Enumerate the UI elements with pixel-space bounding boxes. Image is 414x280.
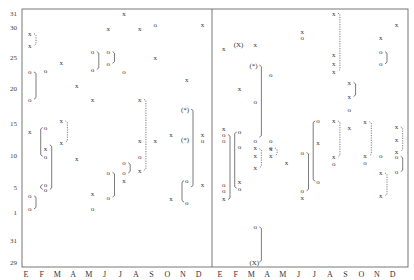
x-marker: x: [269, 152, 273, 160]
chart: 313025201510513129 EFMAMJJASONDEFMAMJJAS…: [0, 0, 414, 280]
o-marker: o: [44, 124, 48, 132]
o-marker: o: [332, 160, 336, 168]
x-tick-label: M: [248, 270, 255, 279]
o-marker: o: [91, 205, 95, 213]
o-marker: o: [28, 96, 32, 104]
o-marker: o: [201, 137, 205, 145]
x-axis: EFMAMJJASONDEFMAMJJASOND: [24, 270, 396, 279]
x-marker: x: [348, 79, 352, 87]
x-marker: x: [138, 137, 142, 145]
x-marker: x: [107, 25, 111, 33]
star-paren-marker: (*): [181, 106, 190, 114]
x-tick-label: F: [233, 270, 238, 279]
x-marker: x: [154, 137, 158, 145]
o-marker: o: [91, 48, 95, 56]
x-marker: x: [75, 82, 79, 90]
o-marker: o: [379, 60, 383, 68]
x-marker: x: [332, 117, 336, 125]
x-marker: x: [395, 21, 399, 29]
o-marker: o: [91, 66, 95, 74]
x-tick-label: E: [218, 270, 223, 279]
o-marker: o: [222, 137, 226, 145]
o-marker: o: [301, 149, 305, 157]
x-marker: x: [285, 159, 289, 167]
o-marker: o: [238, 185, 242, 193]
x-marker: x: [253, 152, 257, 160]
x-paren-marker: (X): [249, 259, 259, 267]
x-marker: x: [201, 181, 205, 189]
x-marker: x: [379, 34, 383, 42]
x-marker: x: [316, 139, 320, 147]
x-marker: x: [154, 54, 158, 62]
x-tick-label: D: [196, 270, 202, 279]
y-tick-label: 31: [10, 237, 18, 245]
o-marker: o: [44, 186, 48, 194]
x-tick-label: A: [70, 270, 76, 279]
o-marker: o: [28, 192, 32, 200]
x-marker: x: [379, 192, 383, 200]
o-marker: o: [379, 48, 383, 56]
x-tick-label: J: [313, 270, 316, 279]
y-axis: 313025201510513129: [10, 10, 18, 267]
x-marker: x: [138, 167, 142, 175]
x-marker: x: [222, 195, 226, 203]
y-tick-label: 15: [10, 120, 18, 128]
o-marker: o: [185, 199, 189, 207]
x-marker: x: [169, 131, 173, 139]
x-tick-label: A: [133, 270, 139, 279]
x-marker: x: [348, 124, 352, 132]
o-marker: o: [28, 205, 32, 213]
o-marker: o: [122, 68, 126, 76]
o-marker: o: [154, 21, 158, 29]
o-marker: o: [222, 187, 226, 195]
x-marker: x: [253, 164, 257, 172]
x-tick-label: M: [279, 270, 286, 279]
o-marker: o: [44, 153, 48, 161]
o-marker: o: [122, 159, 126, 167]
x-marker: x: [59, 117, 63, 125]
x-marker: x: [169, 195, 173, 203]
x-marker: x: [28, 128, 32, 136]
o-marker: o: [185, 177, 189, 185]
x-tick-label: F: [39, 270, 44, 279]
x-marker: x: [185, 76, 189, 84]
o-marker: o: [395, 168, 399, 176]
x-marker: x: [238, 85, 242, 93]
o-marker: o: [107, 194, 111, 202]
o-marker: o: [28, 68, 32, 76]
x-marker: x: [348, 93, 352, 101]
x-marker: x: [253, 41, 257, 49]
y-tick-label: 31: [10, 10, 18, 18]
x-tick-label: N: [374, 270, 380, 279]
x-marker: x: [28, 30, 32, 38]
x-tick-label: A: [327, 270, 333, 279]
y-tick-label: 29: [10, 259, 18, 267]
o-marker: o: [253, 98, 257, 106]
star-paren-marker: (*): [181, 136, 190, 144]
o-marker: o: [107, 48, 111, 56]
o-marker: o: [253, 223, 257, 231]
x-marker: x: [59, 59, 63, 67]
x-tick-label: N: [180, 270, 186, 279]
o-marker: o: [238, 128, 242, 136]
o-marker: o: [238, 143, 242, 151]
x-tick-label: D: [390, 270, 396, 279]
x-tick-label: M: [54, 270, 61, 279]
o-marker: o: [316, 117, 320, 125]
x-tick-label: A: [264, 270, 270, 279]
x-marker: x: [138, 25, 142, 33]
x-marker: x: [122, 10, 126, 18]
x-marker: x: [363, 118, 367, 126]
x-marker: x: [91, 190, 95, 198]
x-marker: x: [91, 96, 95, 104]
y-tick-label: 20: [10, 85, 18, 93]
x-marker: x: [332, 10, 336, 18]
x-marker: x: [28, 42, 32, 50]
x-tick-label: E: [24, 270, 29, 279]
o-marker: o: [138, 153, 142, 161]
x-tick-label: S: [149, 270, 153, 279]
x-marker: x: [201, 21, 205, 29]
o-marker: o: [269, 137, 273, 145]
o-marker: o: [107, 169, 111, 177]
o-marker: o: [363, 159, 367, 167]
